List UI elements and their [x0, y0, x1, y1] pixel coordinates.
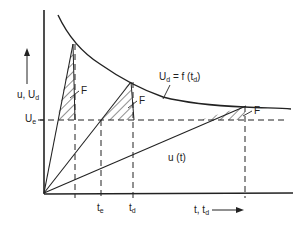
tick-label-td-sub: d [132, 207, 136, 214]
x-axis-arrow-icon [236, 207, 244, 213]
curve-label-rest: = f (t [170, 71, 193, 82]
voltage-time-diagram: u, Ud Ue Ud = f (td) F F F u (t) te td t… [0, 0, 306, 226]
threshold-label: Ue [25, 114, 36, 125]
y-axis-label-main: u, U [17, 89, 35, 100]
area-label-f-1: F [81, 86, 87, 96]
hatched-area-3 [200, 106, 245, 120]
ramp-line-medium [44, 82, 131, 193]
ud-curve [58, 15, 291, 109]
tick-label-td: td [129, 203, 136, 214]
threshold-label-sub: e [32, 118, 36, 125]
curve-label-end: ) [197, 71, 200, 82]
y-axis-label: u, Ud [17, 90, 39, 101]
tick-label-te-sub: e [100, 207, 104, 214]
ramp-label: u (t) [168, 153, 186, 163]
curve-label-leader [163, 85, 170, 99]
y-axis-label-sub: d [35, 94, 39, 101]
y-axis-arrow-icon [24, 48, 30, 56]
tick-label-te: te [97, 203, 104, 214]
x-axis-label: t, td [194, 205, 209, 216]
area-label-f-3: F [254, 106, 260, 116]
x-axis-label-main: t, t [194, 204, 205, 215]
area-label-f-2: F [139, 96, 145, 106]
x-axis-label-sub: d [205, 209, 209, 216]
x-axis [44, 193, 293, 194]
curve-label: Ud = f (td) [159, 72, 200, 83]
